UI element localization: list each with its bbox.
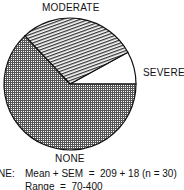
label-moderate: MODERATE (42, 2, 100, 13)
label-none: NONE (55, 153, 85, 164)
pie-chart (0, 0, 184, 190)
label-severe: SEVERE (143, 67, 184, 78)
annotation-prefix: NE: (0, 168, 15, 179)
annotation-line1: Mean + SEM = 209 + 18 (n = 30) (25, 168, 177, 179)
annotation-line2: Range = 70-400 (25, 181, 103, 190)
